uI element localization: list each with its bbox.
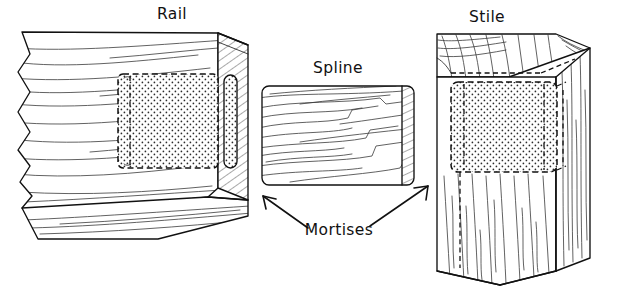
stile-mortise-hidden-fill xyxy=(451,82,557,172)
stile-part: Stile xyxy=(437,8,590,286)
spline-end-hatch xyxy=(402,86,414,185)
figure-canvas: Rail Spline xyxy=(0,0,623,301)
rail-mortise-slot-fill xyxy=(224,75,237,168)
rail-mortise-hidden-fill xyxy=(118,74,218,168)
spline-label: Spline xyxy=(313,59,363,77)
stile-label: Stile xyxy=(469,8,505,26)
rail-label: Rail xyxy=(157,5,187,23)
rail-part: Rail xyxy=(12,5,252,239)
stile-side-face xyxy=(556,48,590,271)
mortises-label: Mortises xyxy=(305,221,374,239)
